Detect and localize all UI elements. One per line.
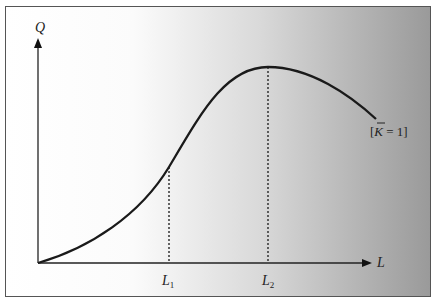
x-axis-arrow-icon	[362, 259, 372, 267]
y-axis-arrow-icon	[34, 38, 42, 48]
tick-label-l2: L2	[261, 273, 274, 290]
y-axis-label: Q	[35, 20, 45, 35]
curve-annotation: [K = 1]	[370, 124, 408, 139]
x-axis-label: L	[376, 255, 385, 270]
total-product-curve	[38, 67, 376, 263]
production-function-plot: Q L L1 L2 [K = 1]	[0, 0, 438, 305]
tick-label-l1: L1	[161, 273, 174, 290]
